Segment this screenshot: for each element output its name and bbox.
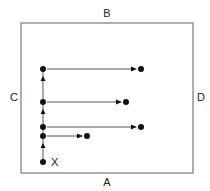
- end-dot: [123, 99, 129, 105]
- horizontal-arrow: [47, 124, 144, 130]
- horizontal-arrows: [47, 66, 144, 139]
- node-dot: [40, 99, 46, 105]
- arrow-right-icon: [131, 67, 137, 72]
- arrow-right-icon: [77, 134, 83, 139]
- horizontal-arrow: [47, 66, 144, 72]
- horizontal-arrow: [47, 133, 90, 139]
- end-dot: [138, 66, 144, 72]
- node-dot: [40, 66, 46, 72]
- arrow-up-icon: [41, 109, 46, 114]
- label-top: B: [103, 7, 110, 19]
- label-right: D: [197, 91, 205, 103]
- start-dot: [40, 159, 46, 165]
- label-left: C: [10, 91, 18, 103]
- label-bottom: A: [103, 176, 111, 188]
- arrow-right-icon: [116, 100, 122, 105]
- enclosure-box: [21, 23, 193, 173]
- end-dot: [138, 124, 144, 130]
- node-dot: [40, 124, 46, 130]
- label-start: X: [51, 156, 59, 168]
- node-dot: [40, 133, 46, 139]
- arrow-up-icon: [41, 76, 46, 81]
- horizontal-arrow: [47, 99, 129, 105]
- arrow-up-icon: [41, 143, 46, 148]
- trajectory-diagram: B A C D: [0, 0, 210, 191]
- end-dot: [84, 133, 90, 139]
- arrow-right-icon: [131, 125, 137, 130]
- vertical-path: [41, 69, 46, 162]
